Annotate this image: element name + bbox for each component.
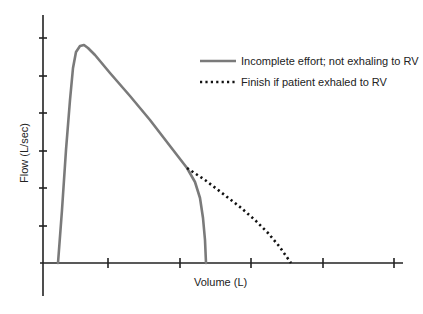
legend: Incomplete effort; not exhaling to RV Fi…: [200, 55, 419, 88]
flow-volume-chart: Incomplete effort; not exhaling to RV Fi…: [0, 0, 423, 314]
x-axis-label: Volume (L): [194, 276, 247, 288]
legend-label-solid: Incomplete effort; not exhaling to RV: [241, 55, 419, 67]
y-axis-label: Flow (L/sec): [18, 123, 30, 183]
incomplete-effort-curve: [58, 45, 206, 263]
legend-label-dotted: Finish if patient exhaled to RV: [241, 76, 388, 88]
